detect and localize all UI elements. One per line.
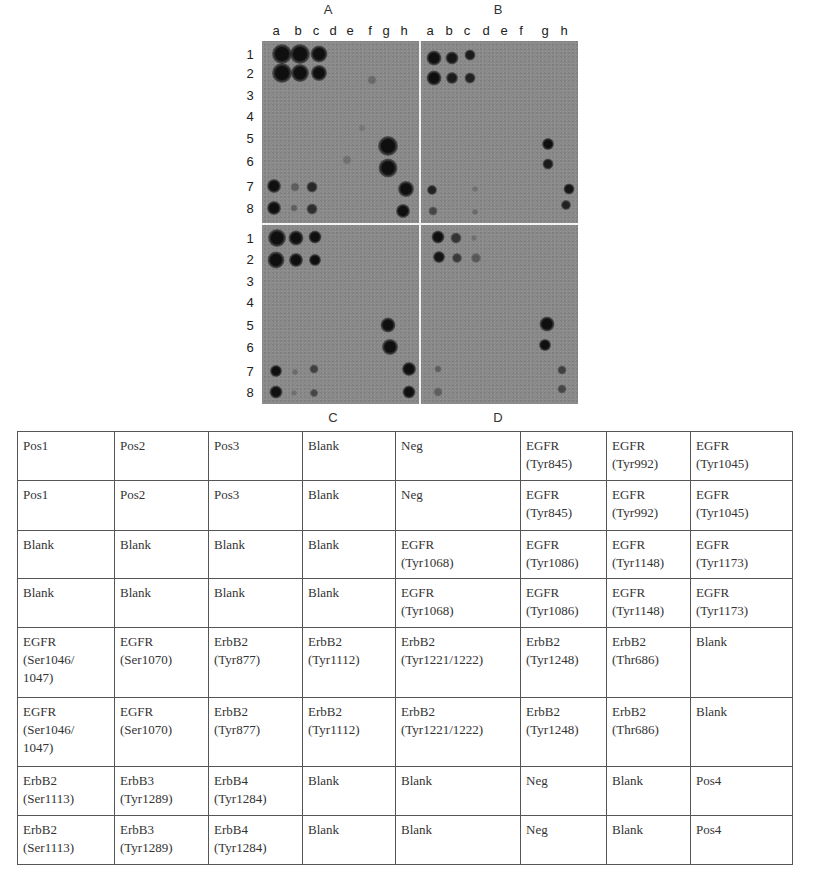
- cell-text: ErbB3 (Tyr1289): [120, 773, 173, 806]
- table-cell: EGFR (Ser1070): [115, 698, 209, 767]
- table-cell: Neg: [396, 481, 521, 531]
- panel-label-a: A: [324, 2, 333, 17]
- blot-spot: [465, 50, 476, 61]
- blot-spot: [446, 72, 458, 84]
- blot-spot: [561, 200, 571, 210]
- row-label-bottom-1: 1: [246, 231, 253, 246]
- blot-spot: [381, 318, 396, 333]
- table-cell: Blank: [396, 767, 521, 816]
- cell-text: EGFR (Tyr1045): [696, 438, 749, 471]
- blot-spot: [291, 64, 309, 82]
- table-cell: EGFR (Tyr1173): [691, 531, 793, 579]
- cell-text: Blank: [23, 537, 54, 552]
- table-cell: Blank: [303, 481, 396, 531]
- cell-text: Blank: [120, 537, 151, 552]
- column-label-left-b: b: [294, 23, 301, 38]
- blot-spot: [558, 385, 567, 394]
- blot-spot: [270, 386, 283, 399]
- table-cell: Blank: [303, 432, 396, 481]
- blot-spot: [472, 209, 478, 215]
- row-label-top-4: 4: [246, 109, 253, 124]
- cell-text: ErbB2 (Tyr1221/1222): [401, 634, 483, 667]
- cell-text: Blank: [696, 704, 727, 719]
- cell-text: Blank: [612, 773, 643, 788]
- table-cell: Blank: [115, 579, 209, 628]
- column-label-right-a: a: [426, 23, 433, 38]
- blot-spot: [272, 44, 292, 64]
- cell-text: ErbB2 (Tyr1248): [526, 634, 579, 667]
- blot-spot: [465, 73, 476, 84]
- cell-text: EGFR (Tyr992): [612, 487, 658, 520]
- table-cell: EGFR (Tyr1045): [691, 432, 793, 481]
- blot-spot: [292, 369, 298, 375]
- cell-text: Neg: [526, 773, 548, 788]
- table-cell: Pos1: [18, 481, 115, 531]
- blot-spot: [543, 159, 554, 170]
- cell-text: Blank: [696, 634, 727, 649]
- table-cell: Blank: [303, 579, 396, 628]
- cell-text: EGFR (Tyr845): [526, 438, 572, 471]
- table-row: BlankBlankBlankBlankEGFR (Tyr1068)EGFR (…: [18, 579, 793, 628]
- blot-spot: [471, 235, 477, 241]
- blot-spot: [311, 65, 327, 81]
- cell-text: Pos1: [23, 438, 48, 453]
- blot-spot: [432, 231, 445, 244]
- table-cell: Blank: [303, 767, 396, 816]
- blot-spot: [307, 204, 318, 215]
- blot-spot: [382, 339, 398, 355]
- table-row: Pos1Pos2Pos3BlankNegEGFR (Tyr845)EGFR (T…: [18, 432, 793, 481]
- cell-text: Blank: [308, 822, 339, 837]
- cell-text: EGFR (Tyr1086): [526, 585, 579, 618]
- table-cell: ErbB4 (Tyr1284): [209, 816, 303, 865]
- table-cell: EGFR (Tyr1173): [691, 579, 793, 628]
- table-row: ErbB2 (Ser1113)ErbB3 (Tyr1289)ErbB4 (Tyr…: [18, 767, 793, 816]
- row-label-bottom-3: 3: [246, 274, 253, 289]
- cell-text: Neg: [401, 487, 423, 502]
- blot-spot: [289, 253, 303, 267]
- blot-spot: [291, 390, 297, 396]
- blot-spot: [359, 125, 366, 132]
- row-label-bottom-5: 5: [246, 318, 253, 333]
- table-cell: EGFR (Tyr1086): [521, 531, 607, 579]
- cell-text: ErbB2 (Thr686): [612, 634, 659, 667]
- blot-spot: [289, 231, 304, 246]
- row-label-bottom-7: 7: [246, 364, 253, 379]
- cell-text: Blank: [308, 773, 339, 788]
- table-cell: Pos4: [691, 767, 793, 816]
- blot-spot: [427, 185, 437, 195]
- cell-text: EGFR (Ser1046/ 1047): [23, 634, 74, 685]
- dot-blot-array: [262, 41, 578, 404]
- table-cell: Pos2: [115, 432, 209, 481]
- cell-text: EGFR (Tyr1068): [401, 537, 454, 570]
- cell-text: EGFR (Tyr1086): [526, 537, 579, 570]
- column-label-left-d: d: [329, 23, 336, 38]
- row-label-top-6: 6: [246, 154, 253, 169]
- cell-text: Blank: [214, 537, 245, 552]
- cell-text: Blank: [401, 822, 432, 837]
- table-cell: Neg: [521, 816, 607, 865]
- cell-text: EGFR (Tyr1148): [612, 537, 664, 570]
- table-cell: EGFR (Ser1070): [115, 628, 209, 698]
- cell-text: ErbB2 (Tyr1112): [308, 704, 360, 737]
- row-label-bottom-4: 4: [246, 295, 253, 310]
- table-cell: EGFR (Tyr1148): [607, 531, 691, 579]
- row-label-top-2: 2: [246, 66, 253, 81]
- table-cell: Pos2: [115, 481, 209, 531]
- table-cell: EGFR (Tyr1045): [691, 481, 793, 531]
- table-cell: Blank: [18, 579, 115, 628]
- cell-text: EGFR (Ser1070): [120, 634, 172, 667]
- table-cell: ErbB2 (Ser1113): [18, 767, 115, 816]
- table-cell: EGFR (Tyr1148): [607, 579, 691, 628]
- blot-spot: [540, 317, 555, 332]
- cell-text: Pos4: [696, 773, 721, 788]
- cell-text: Blank: [23, 585, 54, 600]
- cell-text: Blank: [308, 537, 339, 552]
- blot-spot: [268, 252, 285, 269]
- blot-spot: [307, 182, 318, 193]
- blot-spot: [471, 253, 481, 263]
- blot-spot: [311, 46, 328, 63]
- blot-spot: [272, 63, 292, 83]
- table-cell: ErbB2 (Tyr1221/1222): [396, 698, 521, 767]
- table-cell: Blank: [607, 816, 691, 865]
- table-cell: ErbB2 (Ser1113): [18, 816, 115, 865]
